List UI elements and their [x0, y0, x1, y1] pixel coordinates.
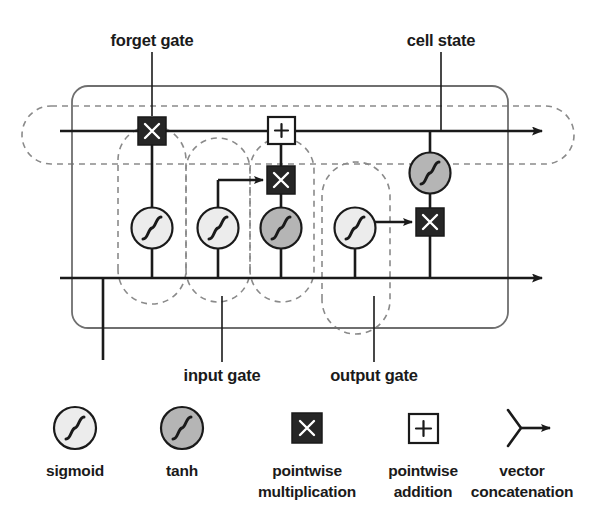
legend-label-tanh: tanh	[166, 462, 198, 479]
annotation-output-gate: output gate	[330, 366, 418, 384]
forget-sigmoid-node	[132, 208, 173, 249]
legend-label-vector-concatenation-line1: vector	[499, 462, 544, 479]
output-pointwise-multiplication	[416, 208, 444, 236]
input-sigmoid-node	[198, 208, 239, 249]
cellstate-tanh-node	[410, 153, 451, 194]
legend-label-pointwise-multiplication-line1: pointwise	[272, 462, 342, 479]
input-pointwise-multiplication	[267, 166, 295, 194]
lstm-cell-diagram: forget gate cell state input gate output…	[0, 0, 597, 522]
legend-label-vector-concatenation-line2: concatenation	[471, 483, 573, 500]
legend-label-pointwise-addition-line1: pointwise	[388, 462, 458, 479]
legend-label-sigmoid: sigmoid	[46, 462, 104, 479]
legend-label-pointwise-multiplication-line2: multiplication	[258, 483, 356, 500]
legend-item-tanh: tanh	[161, 407, 203, 479]
cell-pointwise-addition	[268, 117, 295, 144]
forget-pointwise-multiplication	[138, 117, 166, 145]
output-sigmoid-node	[335, 208, 376, 249]
annotation-input-gate: input gate	[184, 366, 261, 384]
candidate-tanh-node	[261, 208, 302, 249]
annotation-forget-gate: forget gate	[110, 31, 193, 49]
legend-label-pointwise-addition-line2: addition	[394, 483, 453, 500]
annotation-cell-state: cell state	[407, 31, 476, 49]
